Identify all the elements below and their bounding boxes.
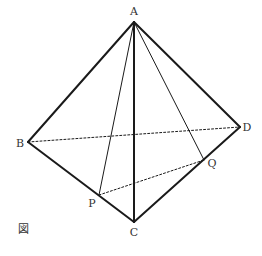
edge-bc [28, 142, 134, 222]
vertex-label-d: D [243, 121, 252, 134]
edge-pq [99, 160, 204, 195]
edge-cd [134, 127, 240, 222]
edge-ab [28, 22, 134, 142]
vertex-label-b: B [16, 137, 24, 150]
vertex-label-p: P [88, 197, 96, 210]
edge-ap [99, 22, 134, 195]
tetrahedron-diagram: ABCDPQ 図 [0, 0, 262, 256]
vertex-label-q: Q [207, 157, 216, 170]
edge-aq [134, 22, 204, 160]
vertex-label-c: C [130, 226, 138, 239]
vertex-label-a: A [129, 5, 139, 18]
edges-group [28, 22, 240, 222]
edge-ad [134, 22, 240, 127]
figure-mark: 図 [18, 223, 29, 236]
